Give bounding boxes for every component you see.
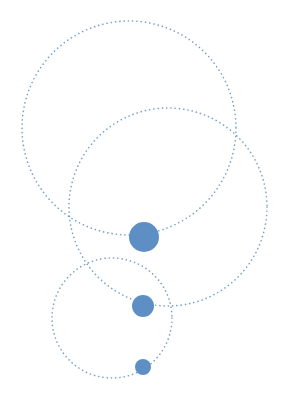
dots-group <box>129 222 159 375</box>
dot-medium <box>132 295 154 317</box>
dot-small <box>135 359 151 375</box>
dot-large <box>129 222 159 252</box>
orbit-medium <box>69 108 267 306</box>
orbit-large <box>22 21 236 235</box>
orbits-group <box>22 21 267 378</box>
orbit-diagram <box>0 0 288 407</box>
orbit-small <box>52 258 172 378</box>
